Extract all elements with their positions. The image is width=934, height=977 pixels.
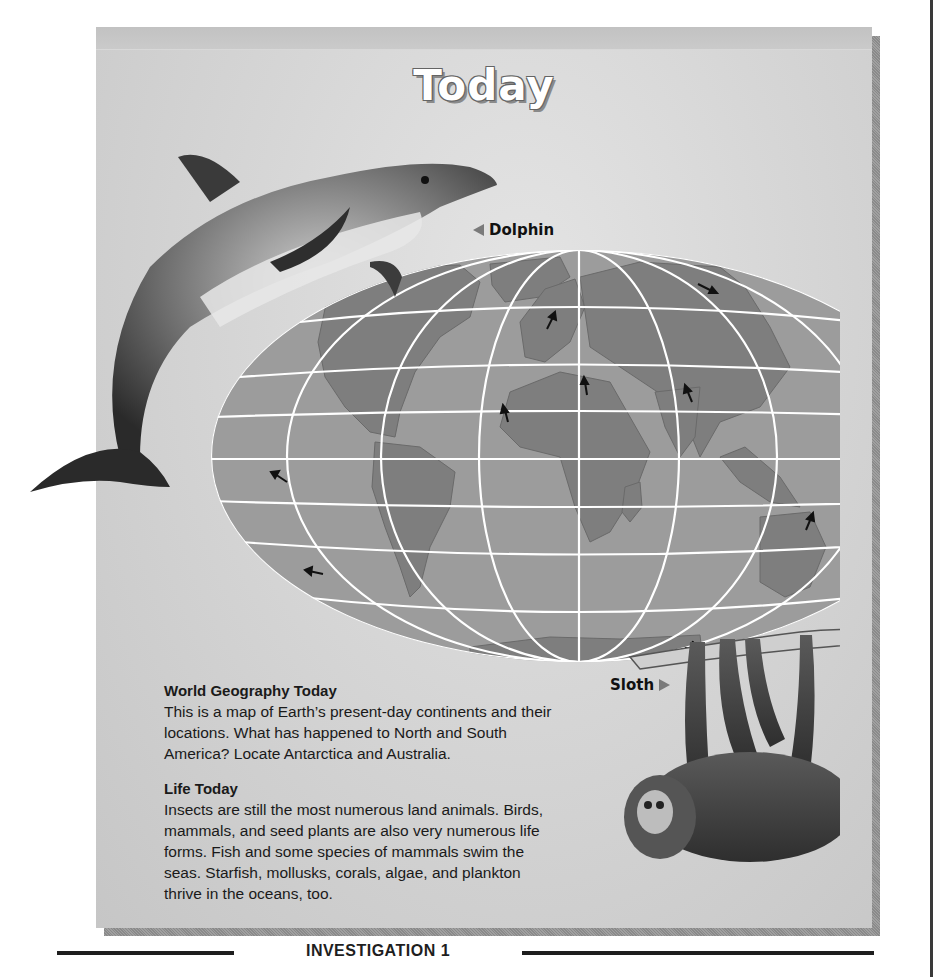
section-line: forms. Fish and some species of mammals … bbox=[164, 841, 584, 862]
footer-label: INVESTIGATION 1 bbox=[240, 942, 516, 960]
pointer-left-icon bbox=[473, 224, 484, 236]
section-heading: Life Today bbox=[164, 779, 584, 799]
dolphin-label-text: Dolphin bbox=[489, 221, 554, 239]
dolphin-label: Dolphin bbox=[473, 221, 554, 239]
section-line: This is a map of Earth’s present-day con… bbox=[164, 701, 584, 722]
section-line: America? Locate Antarctica and Australia… bbox=[164, 743, 584, 764]
section-world-geography: World Geography Today This is a map of E… bbox=[164, 681, 584, 764]
content-panel: Today bbox=[96, 27, 872, 928]
section-heading: World Geography Today bbox=[164, 681, 584, 701]
sloth-illustration bbox=[624, 629, 840, 862]
sloth-label: Sloth bbox=[610, 676, 670, 694]
section-line: locations. What has happened to North an… bbox=[164, 722, 584, 743]
world-map bbox=[211, 250, 840, 687]
footer-rule-left bbox=[57, 951, 234, 955]
section-line: seas. Starfish, mollusks, corals, algae,… bbox=[164, 862, 584, 883]
section-line: mammals, and seed plants are also very n… bbox=[164, 820, 584, 841]
sloth-label-text: Sloth bbox=[610, 676, 654, 694]
section-line: Insects are still the most numerous land… bbox=[164, 799, 584, 820]
page-edge-line bbox=[930, 0, 933, 977]
pointer-right-icon bbox=[659, 679, 670, 691]
footer-rule-right bbox=[522, 951, 874, 955]
page-footer: INVESTIGATION 1 bbox=[0, 938, 934, 964]
section-line: thrive in the oceans, too. bbox=[164, 883, 584, 904]
section-life-today: Life Today Insects are still the most nu… bbox=[164, 779, 584, 904]
